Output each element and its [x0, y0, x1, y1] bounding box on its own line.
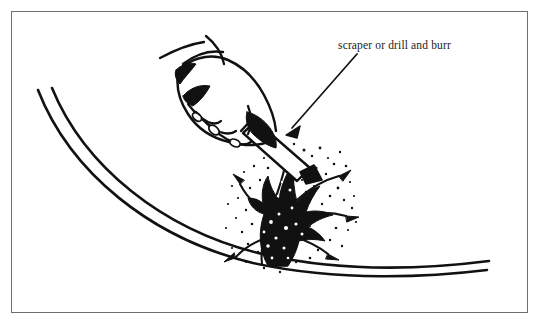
annotation-label: scraper or drill and burr [338, 39, 451, 52]
figure-page: scraper or drill and burr [0, 0, 539, 324]
illustration-canvas: scraper or drill and burr [0, 0, 539, 324]
